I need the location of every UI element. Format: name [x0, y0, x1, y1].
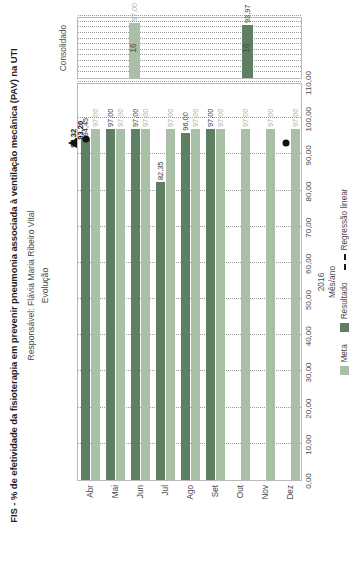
bar-label-resultado: 97,00: [106, 109, 115, 128]
bar-group: 97,0094,45: [78, 84, 103, 480]
legend-swatch-meta: [340, 367, 349, 376]
value-axis-tick: 80,00: [304, 182, 313, 202]
bar-label-meta: 97,00: [116, 109, 125, 128]
bar-label: 93,97: [243, 5, 252, 24]
bar-meta[interactable]: [116, 129, 125, 480]
bar-label: 97,00: [130, 3, 139, 22]
value-axis-tick: 40,00: [304, 326, 313, 346]
bar-group: 97,0097,00: [103, 84, 128, 480]
bar-label-meta: 97,00: [166, 109, 175, 128]
x-axis-title: 2016Mês/ano: [316, 83, 337, 481]
bar-resultado[interactable]: [106, 129, 115, 480]
bar-label-resultado: 97,00: [131, 109, 140, 128]
regression-end-marker: [282, 139, 289, 146]
x-axis-unit: Mês/ano: [327, 83, 338, 481]
regression-end-label: 93,20: [76, 121, 85, 140]
gridline: [78, 15, 301, 16]
category-label-consolidado: 16: [241, 23, 250, 73]
bar-meta[interactable]: [91, 129, 100, 480]
category-label: Out: [235, 485, 244, 521]
bar-meta[interactable]: [216, 129, 225, 480]
section-label-evolucao: Evolução: [40, 0, 51, 571]
legend-label-resultado: Resultado: [340, 282, 349, 319]
chart-legend: Meta Resultado Regressão linear: [340, 83, 349, 481]
legend-item-resultado: Resultado: [340, 282, 349, 332]
bar-label-resultado: 96,00: [181, 112, 190, 131]
legend-item-regressao: Regressão linear: [340, 189, 349, 271]
legend-swatch-resultado: [340, 323, 349, 332]
bar-label-resultado: 82,35: [156, 162, 165, 181]
gridline: [78, 81, 301, 82]
bar-meta[interactable]: [291, 129, 300, 480]
category-label: Ago: [185, 485, 194, 521]
bar-resultado[interactable]: [206, 129, 215, 480]
value-axis-tick: 30,00: [304, 362, 313, 382]
bar-label-meta: 97,00: [291, 109, 300, 128]
section-label-consolidado: Consolidado: [58, 17, 68, 79]
bar-group: 97,00: [228, 84, 253, 480]
bar-group: 97,0097,00: [128, 84, 153, 480]
main-plot-area: 97,0094,4597,0097,0097,0097,0097,0082,35…: [77, 83, 302, 481]
chart-header: FIS - % de efetividade da fisioterapia e…: [8, 0, 51, 571]
value-axis-tick: 0,00: [304, 473, 313, 489]
category-label: Jun: [135, 485, 144, 521]
bar-group: 97,0097,00: [203, 84, 228, 480]
value-axis-tick: 70,00: [304, 218, 313, 238]
bar-group: 97,0082,35: [153, 84, 178, 480]
value-axis-tick: 100,00: [304, 107, 313, 131]
bar-label-meta: 97,00: [191, 109, 200, 128]
bar-label-resultado: 97,00: [206, 109, 215, 128]
bar-group: 97,00: [253, 84, 278, 480]
bar-label-meta: 97,00: [266, 109, 275, 128]
bar-label-meta: 97,00: [91, 109, 100, 128]
bar-meta[interactable]: [266, 129, 275, 480]
bar-resultado[interactable]: [156, 182, 165, 480]
legend-item-meta: Meta: [340, 344, 349, 375]
value-axis-tick: 60,00: [304, 254, 313, 274]
value-axis-tick: 10,00: [304, 435, 313, 455]
consolidated-plot-area: 97,0093,97: [77, 17, 302, 79]
bar-group: 97,0096,00: [178, 84, 203, 480]
category-label: Nov: [260, 485, 269, 521]
bar-meta[interactable]: [141, 129, 150, 480]
category-label: Mai: [110, 485, 119, 521]
page-title: FIS - % de efetividade da fisioterapia e…: [8, 0, 20, 571]
bar-meta[interactable]: [166, 129, 175, 480]
bar-meta[interactable]: [191, 129, 200, 480]
category-label-consolidado: 16: [129, 23, 138, 73]
value-axis-tick: 50,00: [304, 290, 313, 310]
responsible-line: Responsável: Flávia Maria Ribeiro Vital: [25, 0, 37, 571]
bar-resultado[interactable]: [81, 138, 90, 480]
category-label: Abr: [85, 485, 94, 521]
bar-label-meta: 97,00: [241, 109, 250, 128]
legend-swatch-regressao: [344, 254, 346, 270]
value-axis-tick: 20,00: [304, 399, 313, 419]
legend-label-regressao: Regressão linear: [340, 189, 349, 251]
category-label: Dez: [285, 485, 294, 521]
legend-label-meta: Meta: [340, 344, 349, 362]
bar-resultado[interactable]: [131, 129, 140, 480]
bar-label-meta: 97,00: [216, 109, 225, 128]
bar-resultado[interactable]: [181, 133, 190, 480]
x-axis-year: 2016: [316, 83, 327, 481]
bar-label-meta: 97,00: [141, 109, 150, 128]
category-label: Jul: [160, 485, 169, 521]
value-axis-tick: 90,00: [304, 145, 313, 165]
category-label: Set: [210, 485, 219, 521]
value-axis-tick: 110,00: [304, 71, 313, 95]
bar-meta[interactable]: [241, 129, 250, 480]
